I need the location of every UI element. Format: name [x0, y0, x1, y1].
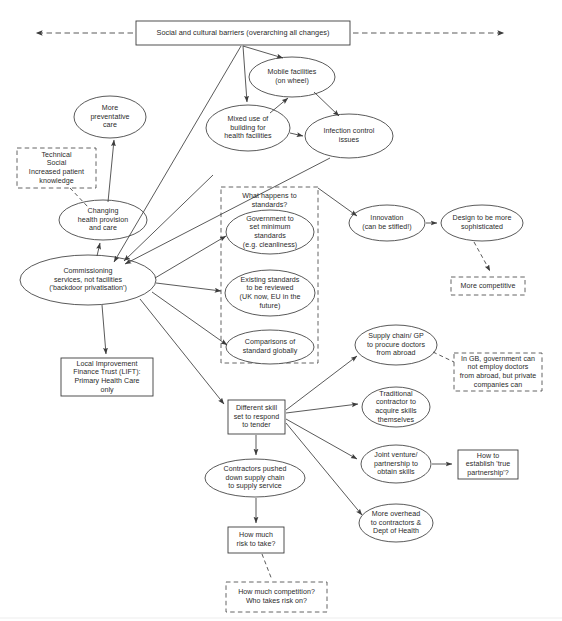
node-how-much-competition-shape: [226, 582, 327, 612]
edge-commissioning-to-govstd: [155, 236, 226, 278]
node-more-overhead-shape: [359, 504, 433, 542]
node-changing-health-provision-shape: [59, 200, 147, 240]
flowchart-svg: [0, 0, 562, 621]
node-establish-true-partnership-shape: [458, 450, 518, 479]
edge-supply-to-gbnote: [433, 352, 454, 362]
edge-commissioning-to-lift: [102, 305, 106, 354]
edge-design-to-competitive: [474, 242, 490, 271]
node-supply-chain-gp-shape: [355, 325, 437, 365]
edge-risk-to-competition: [262, 554, 272, 580]
edge-standards-to-innovation: [318, 188, 357, 216]
edge-barriers-to-mixed: [243, 46, 247, 102]
edge-mobile-to-infection: [314, 92, 339, 116]
node-traditional-contractor-shape: [362, 387, 430, 427]
node-innovation-shape: [349, 205, 425, 241]
edge-changing-to-preventative: [108, 140, 114, 202]
node-social-cultural-barriers-shape: [136, 21, 350, 45]
edge-commissioning-to-changing: [97, 243, 100, 256]
node-joint-venture-shape: [361, 445, 431, 483]
node-more-preventative-care-shape: [74, 96, 146, 138]
edge-skillset-to-traditional: [286, 404, 358, 413]
node-contractors-pushed-down-shape: [205, 459, 305, 497]
node-existing-standards-reviewed-shape: [225, 270, 315, 316]
edge-commissioning-to-existing: [156, 283, 221, 291]
edge-skillset-to-supply: [286, 356, 357, 410]
edge-skillset-to-joint: [286, 419, 357, 459]
node-gb-government-note-shape: [454, 353, 542, 391]
node-commissioning-services-shape: [20, 255, 156, 305]
node-how-much-risk-shape: [228, 527, 284, 553]
node-mixed-use-building-shape: [206, 105, 290, 151]
edge-mixed-to-infection: [290, 133, 303, 136]
node-technical-social-shape: [17, 148, 96, 188]
node-infection-control-shape: [305, 114, 393, 158]
node-mobile-facilities-shape: [249, 57, 335, 97]
node-comparisons-standard-globally-shape: [226, 330, 314, 364]
node-more-competitive-shape: [451, 277, 525, 295]
flowchart-canvas: Social and cultural barriers (overarchin…: [0, 0, 562, 621]
node-government-minimum-standards-shape: [226, 210, 314, 254]
node-design-sophisticated-shape: [441, 205, 523, 241]
node-different-skill-set-shape: [228, 400, 285, 434]
edge-commissioning-to-comparisons: [152, 292, 227, 345]
node-lift-shape: [61, 358, 153, 396]
edge-mixed-to-mobile: [270, 98, 288, 113]
edge-barriers-to-mobile: [243, 46, 283, 58]
